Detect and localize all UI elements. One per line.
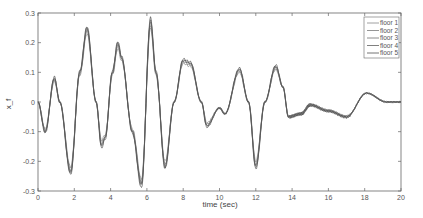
legend-item-label: floor 3 (380, 34, 398, 41)
x-tick-label: 16 (325, 194, 333, 201)
plot-area (38, 13, 401, 191)
legend-item-label: floor 4 (380, 42, 398, 49)
x-tick-label: 20 (397, 194, 405, 201)
x-tick-label: 6 (145, 194, 149, 201)
x-tick-label: 18 (361, 194, 369, 201)
y-tick-label: 0.2 (25, 39, 35, 46)
y-tick-label: -0.3 (23, 188, 35, 195)
y-axis-label: x_f (4, 98, 13, 109)
x-tick-label: 8 (181, 194, 185, 201)
y-tick-label: 0.3 (25, 10, 35, 17)
line-chart: 02468101214161820-0.3-0.2-0.100.10.20.3 … (0, 0, 423, 218)
x-tick-label: 0 (36, 194, 40, 201)
x-tick-label: 4 (109, 194, 113, 201)
legend-item-label: floor 2 (380, 27, 398, 34)
x-tick-label: 12 (252, 194, 260, 201)
y-tick-label: -0.2 (23, 158, 35, 165)
x-tick-label: 14 (288, 194, 296, 201)
y-tick-label: -0.1 (23, 128, 35, 135)
legend-item-label: floor 1 (380, 19, 398, 26)
y-tick-label: 0.1 (25, 69, 35, 76)
x-tick-label: 2 (72, 194, 76, 201)
legend-item-label: floor 5 (380, 49, 398, 56)
y-tick-label: 0 (31, 99, 35, 106)
x-axis-label: time (sec) (202, 200, 237, 209)
legend: floor 1floor 2floor 3floor 4floor 5 (364, 17, 399, 58)
